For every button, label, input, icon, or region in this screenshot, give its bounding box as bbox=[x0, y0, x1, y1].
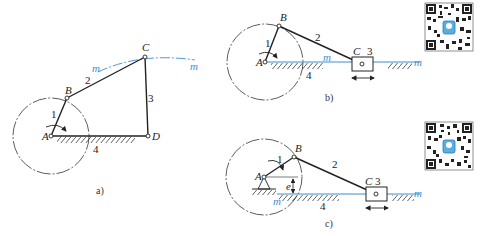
rotation-arrow-icon bbox=[46, 125, 66, 131]
label-link-1: 1 bbox=[265, 37, 271, 49]
label-link-4: 4 bbox=[93, 143, 99, 155]
joint-d bbox=[146, 134, 150, 138]
label-b: B bbox=[295, 142, 302, 154]
joint-a bbox=[49, 134, 53, 138]
qr-logo-dot bbox=[446, 23, 452, 29]
label-link-4: 4 bbox=[306, 69, 312, 81]
label-trace-m-left: m bbox=[92, 62, 100, 74]
label-trace-m-left: m bbox=[273, 195, 281, 207]
label-link-3: 3 bbox=[367, 45, 373, 57]
label-link-1: 1 bbox=[51, 108, 57, 120]
caption-b: b) bbox=[325, 92, 333, 104]
label-link-3: 3 bbox=[148, 92, 154, 104]
label-c: C bbox=[365, 175, 373, 187]
qr-logo-dot bbox=[446, 142, 452, 148]
joint-b bbox=[65, 96, 69, 100]
ground-hatch-right bbox=[388, 63, 412, 69]
qr-code-bottom[interactable] bbox=[424, 121, 474, 171]
label-b: B bbox=[65, 84, 72, 96]
qr-code-top[interactable] bbox=[424, 2, 474, 52]
figure-b-slider-crank: A B C 1 2 3 4 m m b) bbox=[227, 11, 422, 104]
label-c: C bbox=[142, 41, 150, 53]
caption-a: a) bbox=[96, 185, 104, 197]
ground-hatch-left bbox=[279, 195, 339, 201]
joint-c bbox=[143, 55, 147, 59]
figure-c-offset-slider-crank: A B C 1 2 3 4 e m m c) bbox=[226, 139, 422, 230]
label-trace-m-right: m bbox=[414, 56, 422, 68]
joint-c bbox=[360, 62, 364, 66]
label-c: C bbox=[353, 45, 361, 57]
joint-b bbox=[277, 24, 281, 28]
joint-a bbox=[262, 175, 266, 179]
mechanism-diagrams: A B C D 1 2 3 4 m m a) A B C 1 2 3 4 m m… bbox=[0, 0, 484, 236]
label-link-2: 2 bbox=[315, 31, 321, 43]
ground-hatch-right bbox=[392, 195, 414, 201]
label-offset-e: e bbox=[286, 180, 291, 192]
caption-c: c) bbox=[325, 218, 333, 230]
label-a: A bbox=[41, 130, 49, 142]
label-link-2: 2 bbox=[332, 158, 338, 170]
ground-hatch-left bbox=[271, 63, 323, 69]
coupler-link-2 bbox=[67, 57, 145, 98]
joint-b bbox=[292, 155, 296, 159]
joint-a bbox=[263, 60, 267, 64]
label-a: A bbox=[255, 56, 263, 68]
figure-a-four-bar: A B C D 1 2 3 4 m m a) bbox=[13, 41, 198, 197]
joint-c bbox=[374, 192, 378, 196]
label-trace-m-center: m bbox=[323, 51, 331, 63]
label-link-3: 3 bbox=[375, 175, 381, 187]
trace-m-arc bbox=[98, 58, 195, 72]
label-b: B bbox=[280, 11, 287, 23]
label-link-2: 2 bbox=[85, 74, 91, 86]
label-link-1: 1 bbox=[277, 153, 283, 165]
label-a: A bbox=[254, 170, 262, 182]
label-link-4: 4 bbox=[320, 200, 326, 212]
label-trace-m-right: m bbox=[414, 187, 422, 199]
connecting-rod-2 bbox=[279, 26, 362, 64]
label-trace-m-right: m bbox=[190, 60, 198, 72]
label-d: D bbox=[151, 130, 160, 142]
